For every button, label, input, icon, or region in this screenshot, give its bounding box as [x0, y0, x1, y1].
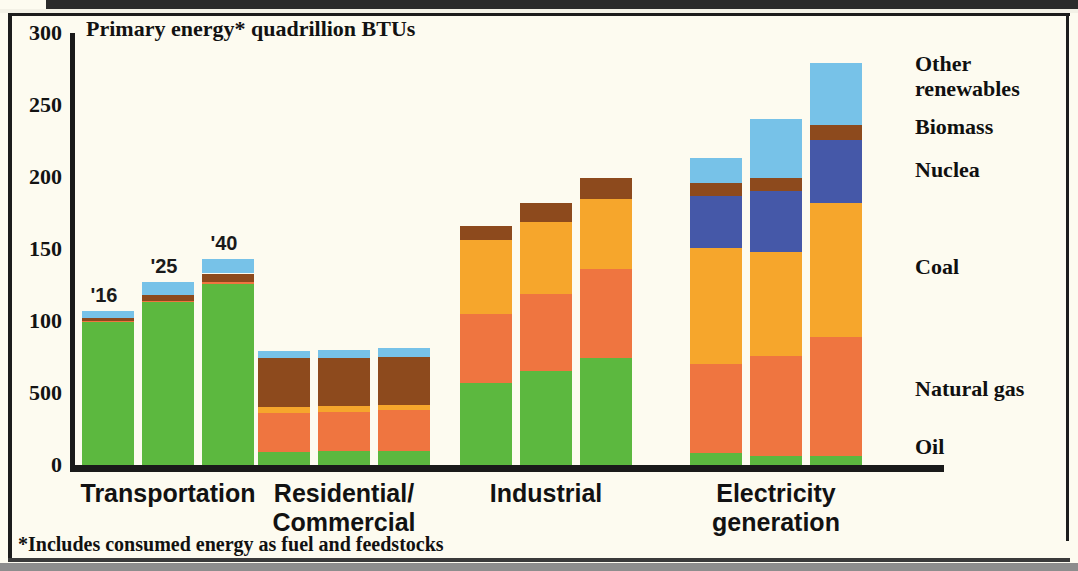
y-axis-tick-labels: 3002502001501005000 [0, 33, 64, 465]
bar-segment-natural-gas[interactable] [580, 269, 632, 358]
bar-segment-other-renewables[interactable] [750, 119, 802, 178]
bar-segment-natural-gas[interactable] [520, 294, 572, 372]
bar-segment-natural-gas[interactable] [258, 413, 310, 452]
bar-segment-biomass[interactable] [82, 318, 134, 321]
bar-segment-oil[interactable] [378, 451, 430, 465]
legend-label-biomass: Biomass [915, 115, 993, 140]
bar-segment-natural-gas[interactable] [378, 410, 430, 450]
y-axis-line [70, 33, 75, 465]
bar-segment-biomass[interactable] [142, 295, 194, 301]
bar-segment-coal[interactable] [810, 203, 862, 337]
bar-segment-nuclear[interactable] [690, 196, 742, 248]
chart-footnote: *Includes consumed energy as fuel and fe… [18, 533, 444, 556]
y-axis-tick-100: 100 [0, 308, 62, 334]
bar-segment-coal[interactable] [460, 240, 512, 313]
bar-segment-natural-gas[interactable] [690, 364, 742, 453]
bar-segment-coal[interactable] [580, 199, 632, 270]
bar-segment-coal[interactable] [520, 222, 572, 294]
stacked-bar[interactable] [580, 178, 632, 465]
bar-year-label: '25 [150, 255, 177, 278]
legend-label-coal: Coal [915, 255, 959, 280]
bar-segment-natural-gas[interactable] [142, 301, 194, 302]
category-label: Industrial [490, 479, 603, 508]
bar-segment-coal[interactable] [690, 248, 742, 365]
category-label: Transportation [80, 479, 255, 508]
stacked-bar[interactable] [202, 259, 254, 465]
stacked-bar[interactable] [378, 348, 430, 465]
x-axis-line [70, 465, 944, 472]
y-axis-tick-300: 300 [0, 20, 62, 46]
bar-segment-other-renewables[interactable] [258, 351, 310, 358]
bar-segment-natural-gas[interactable] [810, 337, 862, 457]
bar-segment-oil[interactable] [810, 456, 862, 465]
stacked-bar[interactable] [258, 351, 310, 465]
y-axis-tick-250: 250 [0, 92, 62, 118]
bar-segment-biomass[interactable] [690, 183, 742, 196]
bar-year-label: '16 [90, 284, 117, 307]
figure-border-bottom [8, 558, 1070, 562]
bar-segment-oil[interactable] [142, 302, 194, 465]
bar-segment-oil[interactable] [460, 383, 512, 465]
bar-segment-biomass[interactable] [520, 203, 572, 222]
bar-segment-oil[interactable] [520, 371, 572, 465]
bar-segment-natural-gas[interactable] [202, 282, 254, 283]
bar-segment-oil[interactable] [690, 453, 742, 465]
bar-segment-oil[interactable] [82, 322, 134, 465]
bar-segment-oil[interactable] [580, 358, 632, 465]
stacked-bar[interactable] [750, 119, 802, 465]
bar-segment-biomass[interactable] [258, 358, 310, 407]
bar-segment-biomass[interactable] [460, 226, 512, 240]
bar-segment-oil[interactable] [258, 452, 310, 465]
bar-segment-other-renewables[interactable] [318, 350, 370, 359]
bar-segment-biomass[interactable] [318, 358, 370, 406]
stacked-bar[interactable] [142, 282, 194, 465]
bar-segment-natural-gas[interactable] [82, 321, 134, 322]
bar-segment-oil[interactable] [202, 284, 254, 465]
bar-segment-natural-gas[interactable] [750, 356, 802, 457]
category-label: Electricity generation [712, 479, 840, 538]
bar-segment-oil[interactable] [318, 451, 370, 465]
legend-label-nuclear: Nuclea [915, 158, 980, 183]
bar-segment-other-renewables[interactable] [202, 259, 254, 273]
bar-segment-nuclear[interactable] [750, 191, 802, 251]
stacked-bar[interactable] [810, 63, 862, 465]
bar-segment-biomass[interactable] [810, 125, 862, 139]
scan-artifact-bottom-bar [0, 563, 1078, 571]
bar-segment-coal[interactable] [378, 405, 430, 411]
bar-segment-other-renewables[interactable] [82, 311, 134, 318]
plot-area: '16'25'40 [70, 33, 1010, 465]
y-axis-tick-50: 500 [0, 380, 62, 406]
bar-segment-coal[interactable] [750, 252, 802, 356]
scan-artifact-top-bar [46, 0, 1078, 9]
figure-border-right [1066, 13, 1069, 541]
bar-segment-biomass[interactable] [750, 178, 802, 191]
stacked-bar[interactable] [82, 311, 134, 465]
bar-segment-coal[interactable] [258, 407, 310, 413]
bar-segment-natural-gas[interactable] [460, 314, 512, 383]
category-label: Residential/ Commercial [272, 479, 415, 538]
bar-segment-other-renewables[interactable] [378, 348, 430, 357]
bar-segment-biomass[interactable] [580, 178, 632, 198]
stacked-bar[interactable] [460, 226, 512, 465]
legend-label-natural-gas: Natural gas [915, 377, 1024, 402]
bar-year-label: '40 [210, 232, 237, 255]
y-axis-tick-150: 150 [0, 236, 62, 262]
bar-group [460, 33, 632, 465]
legend-label-oil: Oil [915, 435, 944, 460]
bar-segment-oil[interactable] [750, 456, 802, 465]
bar-segment-nuclear[interactable] [810, 140, 862, 203]
bar-group: '16'25'40 [82, 33, 254, 465]
bar-segment-other-renewables[interactable] [690, 158, 742, 182]
bar-segment-biomass[interactable] [202, 274, 254, 283]
stacked-bar[interactable] [690, 158, 742, 465]
bar-segment-other-renewables[interactable] [810, 63, 862, 125]
legend-label-other-renewables: Other renewables [915, 52, 1020, 101]
bar-segment-other-renewables[interactable] [142, 282, 194, 295]
bar-segment-natural-gas[interactable] [318, 412, 370, 451]
bar-segment-biomass[interactable] [378, 357, 430, 405]
stacked-bar[interactable] [318, 350, 370, 465]
bar-group [690, 33, 862, 465]
bar-segment-coal[interactable] [318, 406, 370, 412]
stacked-bar[interactable] [520, 203, 572, 465]
chart-figure: Primary energy* quadrillion BTUs 3002502… [0, 0, 1078, 571]
